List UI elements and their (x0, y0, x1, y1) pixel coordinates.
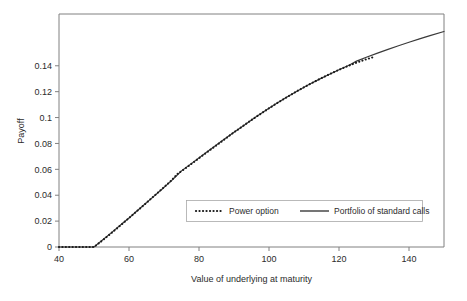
y-tick-label: 0.1 (39, 113, 52, 123)
legend-label-portfolio-of-standard-calls: Portfolio of standard calls (334, 206, 429, 216)
y-tick-label: 0 (47, 242, 52, 252)
y-axis-title: Payoff (16, 118, 26, 144)
x-tick-label: 80 (194, 254, 204, 264)
y-tick-label: 0.14 (34, 61, 52, 71)
x-tick-label: 140 (401, 254, 416, 264)
y-tick-label: 0.12 (34, 87, 52, 97)
x-tick-label: 100 (261, 254, 276, 264)
chart-canvas: 00.020.040.060.080.10.120.14 40608010012… (0, 0, 467, 301)
chart-legend: Power option Portfolio of standard calls (187, 201, 430, 222)
x-axis-title: Value of underlying at maturity (191, 274, 312, 284)
x-tick-label: 60 (124, 254, 134, 264)
y-tick-label: 0.02 (34, 216, 52, 226)
legend-label-power-option: Power option (229, 206, 279, 216)
y-tick-label: 0.06 (34, 165, 52, 175)
x-tick-label: 120 (331, 254, 346, 264)
chart-figure: 00.020.040.060.080.10.120.14 40608010012… (0, 0, 467, 301)
y-tick-label: 0.08 (34, 139, 52, 149)
x-tick-label: 40 (54, 254, 64, 264)
figure-background (0, 0, 467, 301)
y-tick-label: 0.04 (34, 190, 52, 200)
